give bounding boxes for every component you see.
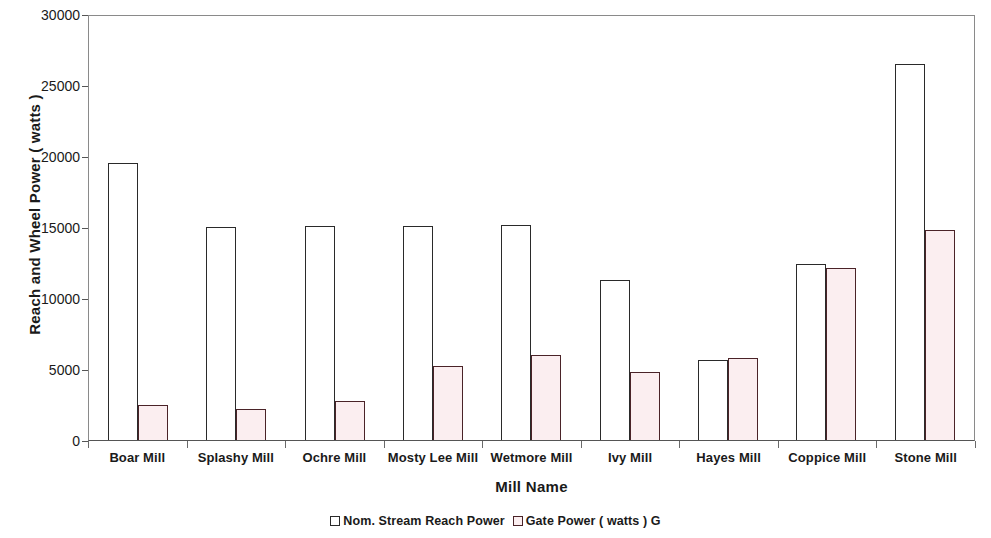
bar-group (286, 16, 384, 440)
x-tick-mark (384, 441, 385, 448)
bar[interactable] (531, 355, 561, 440)
y-tick-label: 5000 (0, 363, 80, 377)
bar-group (777, 16, 875, 440)
y-tick-label: 10000 (0, 292, 80, 306)
legend-item[interactable]: Gate Power ( watts ) G (513, 514, 661, 528)
x-tick-mark (581, 441, 582, 448)
y-tick-label: 30000 (0, 8, 80, 22)
bar[interactable] (108, 163, 138, 440)
x-tick-mark (975, 441, 976, 448)
bar[interactable] (236, 409, 266, 440)
x-axis-label-splashy-mill: Splashy Mill (187, 450, 286, 466)
bar[interactable] (138, 405, 168, 441)
series-a-swatch (330, 516, 340, 526)
x-axis-label-stone-mill: Stone Mill (877, 450, 976, 466)
bar[interactable] (305, 226, 335, 440)
x-tick-mark (285, 441, 286, 448)
x-tick-mark (187, 441, 188, 448)
x-axis-label-boar-mill: Boar Mill (88, 450, 187, 466)
bar-chart: Reach and Wheel Power ( watts ) 05000100… (0, 0, 991, 538)
chart-legend: Nom. Stream Reach PowerGate Power ( watt… (0, 514, 991, 528)
bar[interactable] (433, 366, 463, 440)
bar[interactable] (501, 225, 531, 440)
x-tick-mark (876, 441, 877, 448)
bar-group (89, 16, 187, 440)
bar[interactable] (630, 372, 660, 440)
bar[interactable] (600, 280, 630, 440)
bar-group (384, 16, 482, 440)
legend-item[interactable]: Nom. Stream Reach Power (330, 514, 504, 528)
x-axis-label-ochre-mill: Ochre Mill (285, 450, 384, 466)
x-axis-label-wetmore-mill: Wetmore Mill (482, 450, 581, 466)
x-tick-mark (679, 441, 680, 448)
y-tick-label: 20000 (0, 150, 80, 164)
bar[interactable] (895, 64, 925, 440)
bar-group (581, 16, 679, 440)
bar[interactable] (826, 268, 856, 440)
y-tick-label: 15000 (0, 221, 80, 235)
plot-area (88, 15, 975, 441)
x-axis-label-coppice-mill: Coppice Mill (778, 450, 877, 466)
bar[interactable] (925, 230, 955, 440)
bar-groups (89, 16, 974, 440)
x-tick-mark (778, 441, 779, 448)
x-axis-label-hayes-mill: Hayes Mill (679, 450, 778, 466)
bar-group (679, 16, 777, 440)
y-axis-ticks: 050001000015000200002500030000 (0, 0, 80, 538)
bar-group (876, 16, 974, 440)
bar[interactable] (335, 401, 365, 440)
bar[interactable] (728, 358, 758, 440)
x-tick-mark (88, 441, 89, 448)
bar-group (482, 16, 580, 440)
series-b-swatch (513, 516, 523, 526)
bar[interactable] (796, 264, 826, 440)
x-axis-label-mosty-lee-mill: Mosty Lee Mill (384, 450, 483, 466)
legend-label: Nom. Stream Reach Power (343, 514, 504, 528)
bar[interactable] (698, 360, 728, 440)
x-axis-title: Mill Name (88, 478, 975, 495)
y-tick-label: 25000 (0, 79, 80, 93)
y-tick-label: 0 (0, 434, 80, 448)
bar-group (187, 16, 285, 440)
bar[interactable] (403, 226, 433, 440)
x-axis-category-labels: Boar MillSplashy MillOchre MillMosty Lee… (88, 450, 975, 466)
legend-label: Gate Power ( watts ) G (526, 514, 661, 528)
x-axis-ticks (88, 441, 975, 449)
x-axis-label-ivy-mill: Ivy Mill (581, 450, 680, 466)
x-tick-mark (482, 441, 483, 448)
bar[interactable] (206, 227, 236, 440)
